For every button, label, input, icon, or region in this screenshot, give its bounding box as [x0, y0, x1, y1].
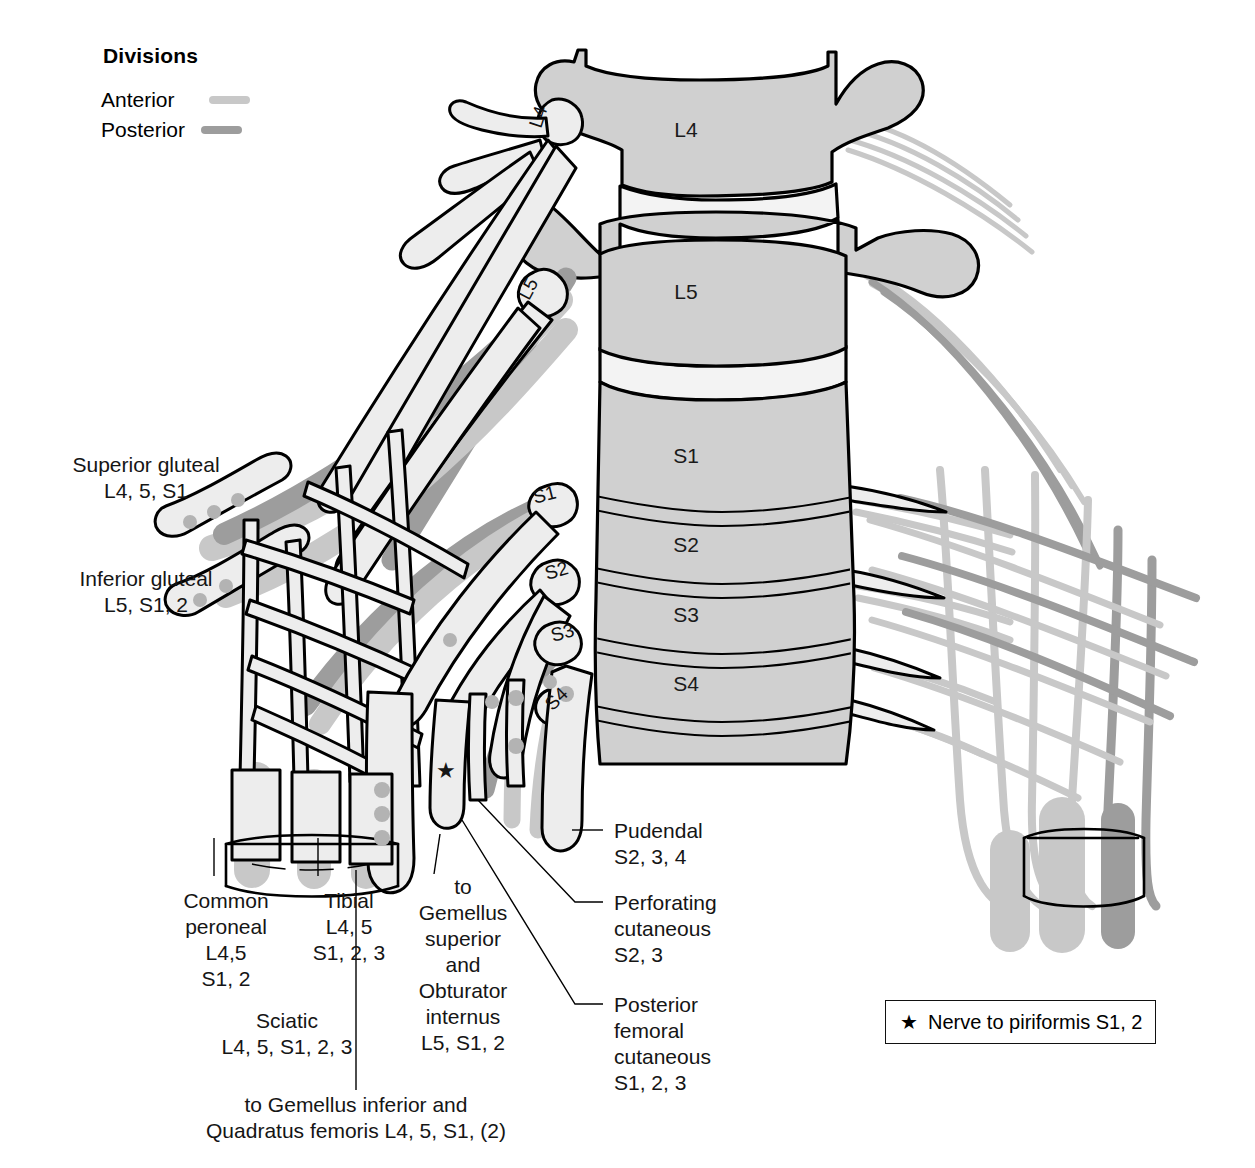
legend: Divisions Anterior Posterior: [101, 44, 250, 145]
legend-item-anterior: Anterior: [101, 85, 250, 115]
label-gemellus-superior-2: Gemellus: [404, 900, 522, 926]
label-gemellus-superior-5: Obturator: [404, 978, 522, 1004]
figure-canvas: .bone { fill:#d0d0d0; stroke:#000; strok…: [0, 0, 1255, 1168]
legend-label-posterior: Posterior: [101, 118, 193, 142]
label-gemellus-superior-6: internus: [404, 1004, 522, 1030]
sacrum: [595, 382, 854, 764]
label-common-peroneal-4: S1, 2: [164, 966, 288, 992]
label-inferior-gluteal-roots: L5, S1, 2: [30, 592, 262, 618]
label-tibial-1: Tibial: [288, 888, 410, 914]
nerve-posterior-femoral-cutaneous: [469, 694, 487, 800]
vertebra-label-S3: S3: [651, 603, 721, 627]
label-gemellus-superior-7: L5, S1, 2: [404, 1030, 522, 1056]
label-inferior-gluteal-name: Inferior gluteal: [30, 566, 262, 592]
label-pudendal-1: Pudendal: [614, 818, 703, 844]
posterior-division-swatch: [201, 126, 242, 134]
vertebra-label-L5: L5: [651, 280, 721, 304]
label-sciatic-roots: L4, 5, S1, 2, 3: [164, 1034, 410, 1060]
label-tibial-3: S1, 2, 3: [288, 940, 410, 966]
label-posterior-femoral-cutaneous-1: Posterior: [614, 992, 698, 1018]
label-tibial-2: L4, 5: [288, 914, 410, 940]
vertebra-L4: [535, 50, 923, 196]
label-gemellus-superior-4: and: [404, 952, 522, 978]
star-icon: ★: [900, 1012, 918, 1032]
vertebra-label-S1: S1: [651, 444, 721, 468]
vertebra-label-S2: S2: [651, 533, 721, 557]
label-gemellus-superior-1: to: [404, 874, 522, 900]
label-sciatic-name: Sciatic: [164, 1008, 410, 1034]
nerve-tibial-trunk: [292, 772, 340, 862]
star-key-box: ★ Nerve to piriformis S1, 2: [885, 1000, 1156, 1044]
label-perforating-cutaneous-1: Perforating: [614, 890, 717, 916]
vertebral-column: [509, 50, 978, 764]
label-posterior-femoral-cutaneous-2: femoral: [614, 1018, 684, 1044]
label-perforating-cutaneous-3: S2, 3: [614, 942, 663, 968]
label-perforating-cutaneous-2: cutaneous: [614, 916, 711, 942]
piriformis-star-marker: ★: [436, 758, 456, 784]
label-superior-gluteal-roots: L4, 5, S1: [30, 478, 262, 504]
anterior-division-swatch: [209, 96, 250, 104]
label-gemellus-superior-3: superior: [404, 926, 522, 952]
vertebra-L5-body: [600, 240, 846, 366]
label-common-peroneal-3: L4,5: [164, 940, 288, 966]
label-posterior-femoral-cutaneous-3: cutaneous: [614, 1044, 711, 1070]
label-posterior-femoral-cutaneous-4: S1, 2, 3: [614, 1070, 686, 1096]
label-pudendal-2: S2, 3, 4: [614, 844, 686, 870]
legend-title: Divisions: [103, 44, 250, 68]
legend-label-anterior: Anterior: [101, 88, 193, 112]
label-gemellus-inferior-2: Quadratus femoris L4, 5, S1, (2): [56, 1118, 656, 1144]
star-key-text: Nerve to piriformis S1, 2: [928, 1011, 1143, 1034]
vertebra-label-S4: S4: [651, 672, 721, 696]
vertebra-label-L4: L4: [651, 118, 721, 142]
label-common-peroneal-1: Common: [164, 888, 288, 914]
label-common-peroneal-2: peroneal: [164, 914, 288, 940]
label-superior-gluteal-name: Superior gluteal: [30, 452, 262, 478]
label-gemellus-inferior-1: to Gemellus inferior and: [56, 1092, 656, 1118]
legend-item-posterior: Posterior: [101, 115, 250, 145]
nerve-common-peroneal-trunk: [232, 770, 280, 860]
